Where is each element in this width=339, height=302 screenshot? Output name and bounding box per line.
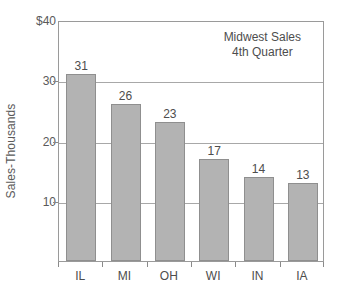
bar-value-label: 23 [150, 108, 190, 120]
x-tick-label: WI [193, 269, 233, 283]
x-axis-labels: ILMIOHWIINIA [58, 269, 324, 285]
bar-value-label: 13 [283, 169, 323, 181]
x-tick-mark [191, 262, 192, 267]
bar [155, 122, 185, 261]
x-tick-mark [58, 262, 59, 267]
x-tick-label: IL [60, 269, 100, 283]
x-tick-mark [235, 262, 236, 267]
bar [111, 104, 141, 261]
bar-value-label: 17 [194, 145, 234, 157]
x-tick-label: MI [105, 269, 145, 283]
y-tick-mark [53, 142, 58, 143]
x-tick-label: IA [282, 269, 322, 283]
y-tick-label: 10 [22, 196, 56, 208]
y-axis-top-label: $40 [22, 15, 56, 27]
x-tick-label: IN [238, 269, 278, 283]
x-axis-ticks [58, 262, 324, 268]
y-tick-label: 20 [22, 136, 56, 148]
x-tick-label: OH [149, 269, 189, 283]
x-tick-mark [102, 262, 103, 267]
plot-area: Midwest Sales 4th Quarter 312623171413 [58, 21, 324, 262]
y-axis-title: Sales-Thousands [0, 0, 22, 302]
bar [66, 74, 96, 261]
x-tick-mark [147, 262, 148, 267]
y-tick-mark [53, 81, 58, 82]
y-tick-mark [53, 202, 58, 203]
bars-layer: 312623171413 [59, 22, 323, 261]
bar [199, 159, 229, 261]
x-tick-mark [280, 262, 281, 267]
bar-chart: Sales-Thousands $40 Midwest Sales 4th Qu… [0, 0, 339, 302]
bar-value-label: 31 [61, 60, 101, 72]
bar-value-label: 14 [239, 163, 279, 175]
bar [288, 183, 318, 261]
y-tick-label: 30 [22, 75, 56, 87]
bar-value-label: 26 [106, 90, 146, 102]
x-tick-mark [323, 262, 324, 267]
bar [244, 177, 274, 261]
